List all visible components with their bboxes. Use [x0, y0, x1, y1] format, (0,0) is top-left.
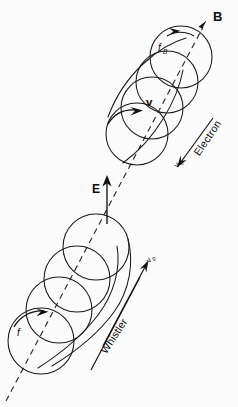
- label-wave-frequency: f: [17, 327, 21, 338]
- label-electron: Electron: [191, 118, 223, 158]
- b-field-arrowhead: [198, 21, 206, 32]
- label-gyrofrequency-subscript: B: [163, 48, 168, 55]
- whistler-electron-diagram: B f B v Electron v 0 E f Whistler: [0, 0, 238, 407]
- label-gyrofrequency: f B: [158, 42, 168, 55]
- whistler-circle-2: [26, 277, 92, 343]
- label-whistler: Whistler: [98, 316, 130, 356]
- whistler-circle-4: [63, 214, 129, 280]
- label-electric-field: E: [92, 182, 100, 196]
- whistler-helix-group: [8, 214, 131, 374]
- label-velocity: v: [146, 96, 153, 108]
- whistler-rotation-arrowhead: [36, 308, 48, 316]
- figure-container: B f B v Electron v 0 E f Whistler: [0, 0, 238, 407]
- label-magnetic-field: B: [213, 9, 222, 24]
- velocity-arrowhead: [130, 107, 143, 116]
- whistler-circle-1: [8, 308, 74, 374]
- whistler-circle-3: [44, 246, 110, 312]
